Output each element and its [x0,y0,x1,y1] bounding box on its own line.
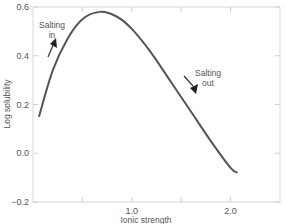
salting-out-label-line1: Salting [195,68,221,78]
arrowhead-icon [190,84,198,94]
annotation-salting-out: Salting out [184,68,221,94]
y-tick-label: 0.0 [16,148,29,158]
y-tick-label: 0.6 [16,2,29,12]
salting-in-label-line1: Salting [39,20,65,30]
y-tick-label: −0.2 [11,197,29,207]
solubility-curve [39,12,238,173]
x-tick-label: 2.0 [224,206,237,216]
arrow-down-icon [184,76,193,86]
y-tick-label: 0.2 [16,100,29,110]
chart: −0.20.00.20.40.6 1.02.0 Salting in Salti… [0,0,285,224]
x-axis-title: Ionic strength [120,215,171,224]
y-tick-label: 0.4 [16,51,29,61]
salting-in-label-line2: in [49,30,56,40]
salting-out-label-line2: out [202,78,214,88]
y-axis-title: Log solubility [2,79,12,129]
y-tick-labels: −0.20.00.20.40.6 [11,2,29,207]
